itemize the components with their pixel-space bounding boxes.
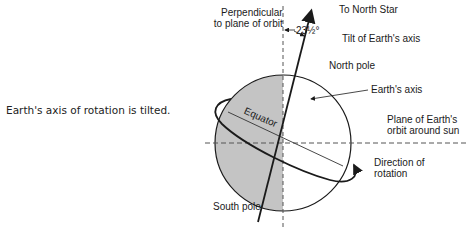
perpendicular-label-line2: to plane of orbit <box>211 18 283 29</box>
north-pole-label: North pole <box>329 60 375 71</box>
direction-label-line2: rotation <box>374 168 425 179</box>
north-star-label: To North Star <box>339 4 398 15</box>
south-pole-label: South pole <box>213 201 261 212</box>
tilt-angle-label: 23½° <box>296 25 319 36</box>
perpendicular-label-line1: Perpendicular <box>221 7 283 18</box>
direction-label-line1: Direction of <box>374 157 425 168</box>
earths-axis-label: Earth's axis <box>371 84 422 95</box>
perpendicular-label: Perpendicular to plane of orbit <box>221 7 283 29</box>
axis-pointer-line <box>311 90 368 99</box>
tilt-label: Tilt of Earth's axis <box>342 33 420 44</box>
orbit-plane-label-line1: Plane of Earth's <box>387 114 459 125</box>
orbit-plane-label-line2: orbit around sun <box>387 125 459 136</box>
orbit-plane-label: Plane of Earth's orbit around sun <box>387 114 459 136</box>
direction-label: Direction of rotation <box>374 157 425 179</box>
